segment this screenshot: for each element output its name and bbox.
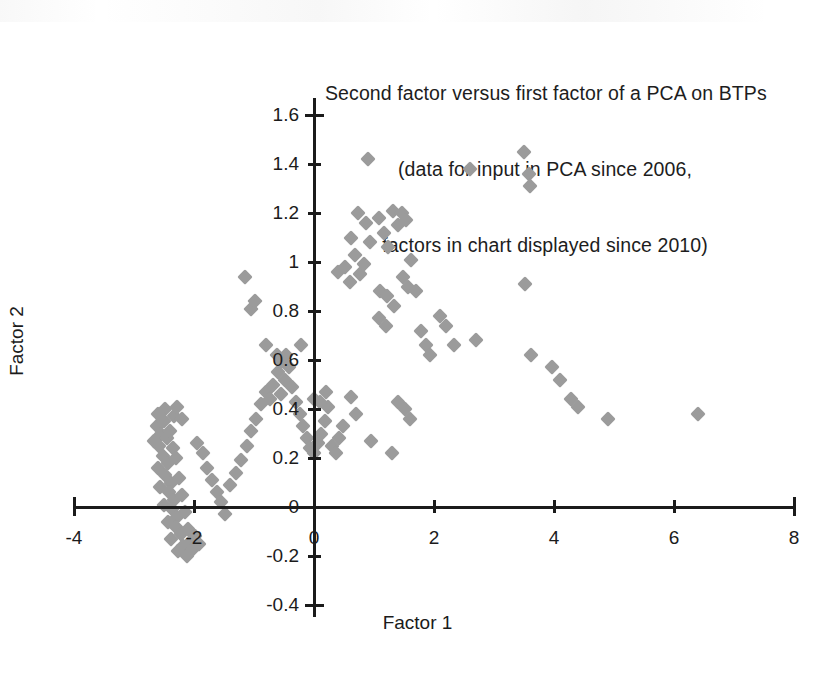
data-point [447,338,463,354]
y-tick [308,163,321,166]
data-point [237,269,253,285]
data-point [363,235,379,251]
x-tick [313,500,316,513]
x-tick-label: 4 [549,527,560,549]
data-point [384,445,400,461]
y-tick-label: 1.2 [273,202,299,224]
data-point [413,323,429,339]
y-tick-label: 1.4 [273,153,299,175]
data-point [544,360,560,376]
y-tick [308,212,321,215]
y-tick [308,261,321,264]
data-point [360,151,376,167]
y-tick [305,114,324,117]
y-tick [308,359,321,362]
y-tick-label: 0.6 [273,349,299,371]
data-point [381,240,397,256]
x-tick [193,500,196,513]
x-tick-label: 8 [789,527,800,549]
y-axis-title: Factor 2 [6,281,28,401]
data-point [552,372,568,388]
data-point [343,389,359,405]
y-tick [308,310,321,313]
x-tick-label: 0 [309,527,320,549]
scatter-plot-area [0,0,835,673]
y-tick-label: 0 [288,496,299,518]
data-point [516,144,532,160]
y-tick-label: 0.4 [273,398,299,420]
data-point [600,411,616,427]
data-point [403,252,419,268]
data-point [523,347,539,363]
x-tick [553,500,556,513]
chart-figure: Second factor versus first factor of a P… [0,0,835,673]
x-tick [433,500,436,513]
x-tick-label: 2 [429,527,440,549]
data-point [376,225,392,241]
x-tick-label: 6 [669,527,680,549]
y-tick-label: 1 [288,251,299,273]
y-tick-label: 1.6 [273,104,299,126]
x-tick [793,497,796,516]
x-tick [673,500,676,513]
x-axis-title: Factor 1 [0,612,835,634]
y-tick-label: 0.8 [273,300,299,322]
y-tick [308,408,321,411]
x-tick-label: -2 [186,527,203,549]
data-point [517,276,533,292]
data-point [258,338,274,354]
data-point [522,178,538,194]
data-point [239,438,255,454]
y-tick-label: 0.2 [273,447,299,469]
y-tick [308,457,321,460]
y-tick-label: -0.2 [266,545,299,567]
data-point [343,230,359,246]
data-point [363,433,379,449]
y-tick [308,555,321,558]
x-tick-label: -4 [66,527,83,549]
data-point [462,161,478,177]
data-point [690,406,706,422]
data-point [348,406,364,422]
data-point [468,333,484,349]
y-tick [305,604,324,607]
x-tick [73,497,76,516]
